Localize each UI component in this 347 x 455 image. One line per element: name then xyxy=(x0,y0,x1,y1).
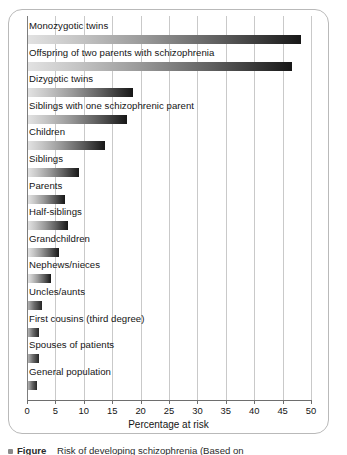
bar xyxy=(28,274,51,283)
bar-row: Offspring of two parents with schizophre… xyxy=(27,48,311,74)
x-tick-label: 10 xyxy=(79,405,89,416)
bar xyxy=(28,195,65,204)
bar-row: Half-siblings xyxy=(27,207,311,233)
bar-row: Uncles/aunts xyxy=(27,287,311,313)
bar-row: Children xyxy=(27,127,311,153)
bar-category-label: Spouses of patients xyxy=(29,339,114,351)
x-tick-label: 40 xyxy=(249,405,259,416)
x-tick-mark xyxy=(254,400,255,404)
x-tick-label: 30 xyxy=(192,405,202,416)
bar-category-label: Monozygotic twins xyxy=(29,20,108,32)
x-tick-mark xyxy=(27,400,28,404)
bar-row: Nephews/nieces xyxy=(27,260,311,286)
bar xyxy=(28,115,127,124)
bar-category-label: Nephews/nieces xyxy=(29,259,100,271)
bar-row: Parents xyxy=(27,181,311,207)
x-tick-label: 5 xyxy=(53,405,58,416)
chart-card: Monozygotic twinsOffspring of two parent… xyxy=(8,9,329,434)
bar-row: Grandchildren xyxy=(27,234,311,260)
bar xyxy=(28,248,59,257)
bar-category-label: Uncles/aunts xyxy=(29,286,85,298)
x-tick-label: 45 xyxy=(277,405,287,416)
bar xyxy=(28,301,42,310)
x-tick-mark xyxy=(226,400,227,404)
figure-caption: Figure Risk of developing schizophrenia … xyxy=(8,445,347,455)
x-tick-label: 25 xyxy=(164,405,174,416)
x-tick-mark xyxy=(197,400,198,404)
bar-category-label: Parents xyxy=(29,180,62,192)
bar xyxy=(28,141,105,150)
bar xyxy=(28,35,301,44)
x-tick-label: 50 xyxy=(306,405,316,416)
bar xyxy=(28,221,68,230)
x-tick-mark xyxy=(112,400,113,404)
bar-category-label: First cousins (third degree) xyxy=(29,313,145,325)
x-tick-label: 20 xyxy=(135,405,145,416)
bar-rows-group: Monozygotic twinsOffspring of two parent… xyxy=(27,16,311,400)
x-axis-title: Percentage at risk xyxy=(9,419,328,430)
bar xyxy=(28,88,133,97)
x-tick-mark xyxy=(169,400,170,404)
x-tick-label: 15 xyxy=(107,405,117,416)
x-tick-mark xyxy=(55,400,56,404)
bar-category-label: Half-siblings xyxy=(29,206,82,218)
bar xyxy=(28,328,39,337)
gridline-50 xyxy=(311,16,312,400)
bar-category-label: Dizygotic twins xyxy=(29,73,93,85)
bar-category-label: Siblings with one schizophrenic parent xyxy=(29,100,194,112)
bar-category-label: General population xyxy=(29,366,111,378)
figure-container: Monozygotic twinsOffspring of two parent… xyxy=(0,0,347,455)
plot-area: Monozygotic twinsOffspring of two parent… xyxy=(27,16,311,400)
x-tick-mark xyxy=(311,400,312,404)
bar-category-label: Grandchildren xyxy=(29,233,90,245)
bar-row: Dizygotic twins xyxy=(27,74,311,100)
bar xyxy=(28,354,39,363)
bar xyxy=(28,381,37,390)
bar-category-label: Offspring of two parents with schizophre… xyxy=(29,47,214,59)
bar-row: General population xyxy=(27,367,311,393)
caption-label: Figure xyxy=(17,445,46,455)
bar-row: Siblings xyxy=(27,154,311,180)
x-tick-mark xyxy=(283,400,284,404)
x-tick-mark xyxy=(84,400,85,404)
x-tick-label: 0 xyxy=(24,405,29,416)
bar-row: Siblings with one schizophrenic parent xyxy=(27,101,311,127)
bar-row: Monozygotic twins xyxy=(27,21,311,47)
bar-category-label: Siblings xyxy=(29,153,63,165)
bar-row: Spouses of patients xyxy=(27,340,311,366)
bar-row: First cousins (third degree) xyxy=(27,314,311,340)
x-tick-mark xyxy=(141,400,142,404)
bar-category-label: Children xyxy=(29,126,65,138)
bar xyxy=(28,62,292,71)
caption-bullet-icon xyxy=(8,449,13,454)
caption-text: Risk of developing schizophrenia (Based … xyxy=(57,445,244,455)
bar xyxy=(28,168,79,177)
x-tick-label: 35 xyxy=(221,405,231,416)
